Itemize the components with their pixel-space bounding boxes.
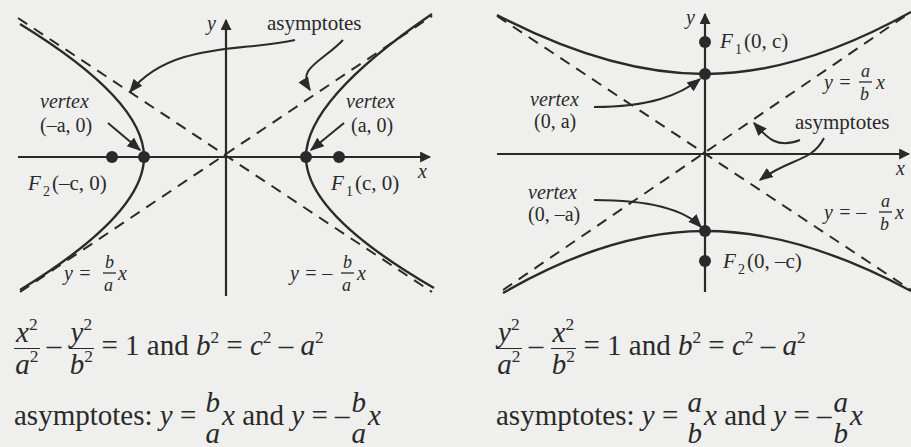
focus-point-f2	[699, 255, 711, 267]
vertex-right-coords: (a, 0)	[351, 114, 393, 137]
svg-text:a: a	[104, 275, 113, 295]
callout-arrow-asymptote-right	[306, 40, 343, 90]
vertex-top-coords: (0, a)	[534, 110, 576, 133]
svg-text:(0, c): (0, c)	[744, 29, 788, 53]
svg-text:b: b	[105, 252, 114, 272]
callout-arrow-asymptote-upper	[754, 123, 800, 143]
left-asymptote-equations: asymptotes: y = bax and y = –bax	[14, 388, 381, 447]
svg-text:b: b	[860, 84, 869, 104]
svg-text:F: F	[722, 249, 736, 273]
svg-text:x: x	[356, 262, 366, 284]
svg-text:1: 1	[346, 184, 353, 199]
svg-text:y =: y =	[822, 71, 851, 94]
svg-text:a: a	[881, 191, 890, 211]
asymptotes-callout-label: asymptotes	[267, 11, 362, 35]
focus-f1-label: F 1 (c, 0)	[330, 171, 399, 199]
vertex-point-top	[699, 68, 711, 80]
svg-text:(c, 0): (c, 0)	[355, 171, 399, 195]
left-standard-equation: x2a2 – y2b2 = 1 and b2 = c2 – a2	[14, 318, 324, 379]
right-standard-equation: y2a2 – x2b2 = 1 and b2 = c2 – a2	[496, 318, 806, 379]
svg-text:F: F	[27, 171, 41, 195]
svg-text:x: x	[117, 262, 127, 284]
callout-arrow-vertex-bottom	[594, 200, 701, 227]
callout-arrow-vertex-right	[311, 123, 344, 150]
svg-text:a: a	[342, 275, 351, 295]
svg-text:F: F	[330, 171, 344, 195]
vertex-point-right	[300, 151, 312, 163]
svg-text:y =: y =	[62, 262, 91, 285]
y-axis-label: y	[205, 12, 216, 35]
vertex-left-coords: (–a, 0)	[40, 114, 92, 137]
asymptotes-callout-label: asymptotes	[795, 110, 890, 134]
vertex-point-left	[138, 151, 150, 163]
vertex-left-label: vertex	[40, 90, 89, 112]
vertex-right-label: vertex	[346, 90, 395, 112]
svg-text:b: b	[880, 214, 889, 234]
svg-text:F: F	[719, 29, 733, 53]
svg-text:1: 1	[735, 42, 742, 57]
svg-text:(–c, 0): (–c, 0)	[52, 171, 107, 195]
right-asymptote-equations: asymptotes: y = abx and y = –abx	[496, 388, 863, 447]
x-axis-label: x	[895, 157, 905, 179]
asymptote-neg-label: y = – b a x	[288, 252, 366, 295]
focus-point-f2	[106, 151, 118, 163]
svg-text:2: 2	[738, 262, 745, 277]
callout-arrow-asymptote-left	[130, 40, 295, 92]
focus-point-f1	[333, 151, 345, 163]
svg-text:(0, –c): (0, –c)	[747, 249, 802, 273]
svg-text:x: x	[875, 71, 885, 93]
svg-text:2: 2	[43, 184, 50, 199]
callout-arrow-asymptote-lower	[760, 138, 824, 180]
focus-f2-label: F 2 (–c, 0)	[27, 171, 107, 199]
focus-f2-label: F 2 (0, –c)	[722, 249, 802, 277]
asymptote-neg-label: y = – a b x	[822, 191, 904, 234]
svg-text:x: x	[894, 201, 904, 223]
svg-text:b: b	[343, 252, 352, 272]
svg-text:a: a	[861, 61, 870, 81]
vertex-bottom-coords: (0, –a)	[528, 203, 580, 226]
right-hyperbola-graph: y x asymptotes vertex (0, a) vertex (0, …	[497, 6, 911, 293]
svg-text:y = –: y = –	[288, 262, 333, 285]
focus-point-f1	[699, 36, 711, 48]
asymptote-pos-label: y = a b x	[822, 61, 885, 104]
y-axis-label: y	[684, 6, 695, 29]
vertex-top-label: vertex	[530, 88, 579, 110]
svg-text:y = –: y = –	[822, 201, 867, 224]
callout-arrow-vertex-top	[594, 79, 700, 107]
x-axis-label: x	[417, 160, 427, 182]
focus-f1-label: F 1 (0, c)	[719, 29, 788, 57]
left-hyperbola-graph: y x asymptotes vertex (–a, 0) vertex (a,…	[18, 11, 434, 296]
vertex-bottom-label: vertex	[528, 181, 577, 203]
